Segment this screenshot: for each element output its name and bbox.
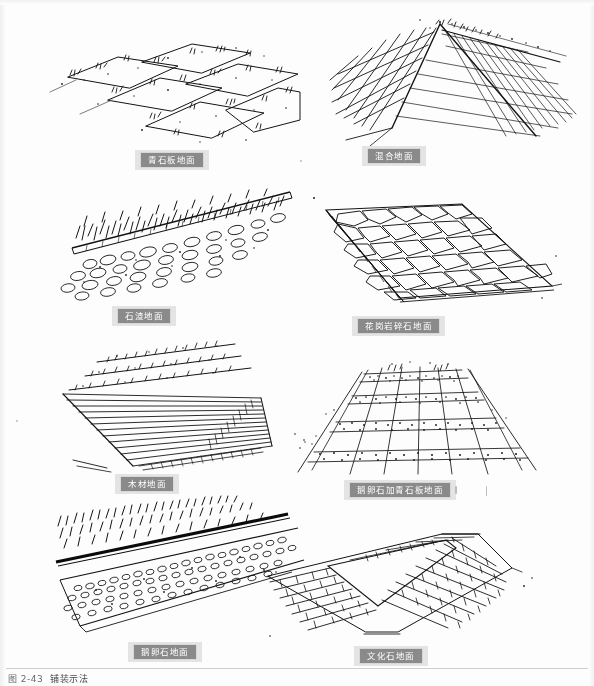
figure-label-bluestone-slab: 青石板地面 [141,153,203,167]
figure-label-gravel-ground: 石渣地面 [118,309,170,323]
sketch-granite-crushed-stone [312,190,564,310]
scan-speck [455,486,457,494]
figure-caption-text: 铺装示法 [50,674,88,684]
scanned-page: 青石板地面 [0,0,594,686]
caption-chip-wrap-bluestone-slab: 青石板地面 [135,150,209,170]
figure-timber-decking: 木材地面 [55,342,320,497]
figure-caption: 图 2-43铺装示法 [8,672,88,685]
figure-label-pebble-with-bluestone: 鹅卵石加青石板地面 [350,483,450,497]
caption-chip-wrap-mixed-paving: 混合地面 [362,146,426,166]
caption-chip-wrap-cultured-stone: 文化石地面 [354,646,428,666]
figure-cultured-stone: 文化石地面 [266,528,541,668]
caption-chip-wrap-pebble-ground: 鹅卵石地面 [128,642,202,662]
figure-label-timber-decking: 木材地面 [121,477,173,491]
sketch-gravel-ground [40,178,295,303]
footer-divider [6,668,588,669]
scan-speck [300,160,302,162]
figure-label-granite-crushed-stone: 花岗岩碎石地面 [358,319,439,333]
scan-speck [16,420,18,422]
page-edge-left [0,0,7,686]
scan-speck [486,486,487,496]
sketch-timber-decking [55,342,313,470]
sketch-bluestone-slab [50,22,300,152]
sketch-pebble-with-bluestone [292,352,542,477]
sketch-cultured-stone [266,528,538,650]
figure-label-pebble-ground: 鹅卵石地面 [134,645,196,659]
caption-chip-wrap-granite-crushed-stone: 花岗岩碎石地面 [352,316,445,336]
figure-pebble-with-bluestone: 鹅卵石加青石板地面 [292,352,552,502]
figure-gravel-ground: 石渣地面 [40,178,300,333]
figure-label-cultured-stone: 文化石地面 [360,649,422,663]
caption-chip-wrap-gravel-ground: 石渣地面 [112,306,176,326]
figure-bluestone-slab: 青石板地面 [50,22,300,172]
figure-number: 图 2-43 [8,674,43,684]
figure-mixed-paving: 混合地面 [330,18,580,173]
figure-granite-crushed-stone: 花岗岩碎石地面 [312,190,572,340]
page-edge-top [0,0,594,5]
sketch-mixed-paving [330,18,580,150]
figure-label-mixed-paving: 混合地面 [368,149,420,163]
caption-chip-wrap-timber-decking: 木材地面 [115,474,179,494]
page-edge-right [588,0,594,686]
caption-chip-wrap-pebble-with-bluestone: 鹅卵石加青石板地面 [344,480,456,500]
